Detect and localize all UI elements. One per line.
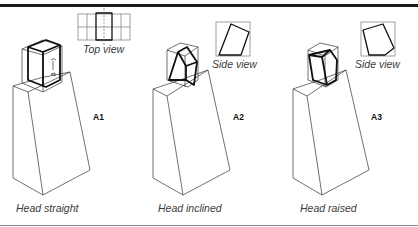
panel-a3-caption: Head raised: [300, 202, 357, 214]
panel-a3-code: A3: [371, 112, 382, 122]
panel-a1-code: A1: [93, 112, 104, 122]
panel-a3-side-view-inset: [361, 22, 395, 56]
diagram-figure: [0, 0, 418, 227]
panel-a2-side-view-inset: [216, 22, 250, 56]
panel-a1-head-cube: [22, 40, 62, 92]
panel-a2-inset-label: Side view: [212, 58, 257, 70]
panel-a2-caption: Head inclined: [158, 202, 222, 214]
panel-a2-head-inclined: [167, 43, 198, 87]
panel-a1-top-view-inset: [78, 8, 130, 46]
bottom-rule: [0, 225, 418, 226]
panel-a3-head-raised: [308, 43, 338, 87]
panel-a2-base-block: [153, 70, 230, 195]
panel-a3-inset-label: Side view: [355, 58, 400, 70]
panel-a3-base-block: [293, 70, 369, 195]
panel-a2-code: A2: [233, 112, 244, 122]
panel-a1-caption: Head straight: [16, 202, 78, 214]
panel-a1-base-block: [13, 72, 90, 195]
panel-a1-inset-label: Top view: [83, 43, 124, 55]
